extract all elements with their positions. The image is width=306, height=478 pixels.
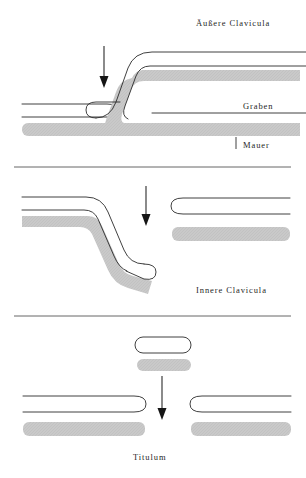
bottom-right-bar-shadow [191,422,291,436]
annotation-mauer: Mauer [243,140,270,150]
panel-aussere-group [22,46,306,149]
left-bar-shadow [22,123,118,136]
bottom-right-bar-outline [190,396,291,412]
figure-canvas: Äußere Clavicula Graben Mauer Innere Cla… [0,0,306,478]
arrow-down-titulum [158,376,167,420]
left-bar-outline [22,104,118,117]
diagram-vector-layer [0,0,306,478]
bottom-left-bar-outline [23,396,146,412]
panel-innere-group [22,186,290,294]
bottom-left-bar-shadow [23,422,145,436]
s-curve-m-shadow [22,216,152,294]
panel-titulum-title: Titulum [133,452,166,462]
s-curve-m-outline-upper [22,197,144,264]
arrow-down-innere [142,186,151,226]
arrow-down-aussere [100,46,109,88]
right-bar-shadow [172,227,290,241]
panel-titulum-group [23,337,291,436]
small-block-shadow [137,359,191,371]
annotation-graben: Graben [243,101,273,111]
right-bar-outline [171,198,290,214]
small-block-outline [135,337,191,353]
panel-aussere-title: Äußere Clavicula [196,18,270,28]
panel-innere-title: Innere Clavicula [196,285,267,295]
